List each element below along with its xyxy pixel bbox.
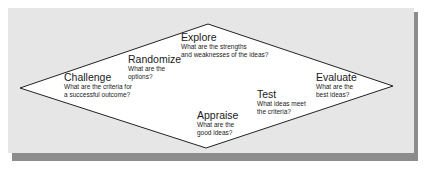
stage-question: options? bbox=[128, 73, 181, 81]
stage-title: Appraise bbox=[197, 110, 238, 121]
stage-randomize: Randomize What are the options? bbox=[128, 54, 181, 81]
stage-question: What are the strengths bbox=[181, 43, 268, 51]
stage-title: Explore bbox=[181, 32, 268, 43]
stage-challenge: Challenge What are the criteria for a su… bbox=[64, 72, 132, 99]
stage-question: good ideas? bbox=[197, 129, 238, 137]
stage-title: Challenge bbox=[64, 72, 132, 83]
stage-test: Test What ideas meet the criteria? bbox=[257, 89, 306, 116]
stage-title: Evaluate bbox=[316, 72, 357, 83]
stage-question: the criteria? bbox=[257, 108, 306, 116]
stage-title: Randomize bbox=[128, 54, 181, 65]
stage-question: What are the bbox=[128, 65, 181, 73]
stage-evaluate: Evaluate What are the best ideas? bbox=[316, 72, 357, 99]
stage-question: best ideas? bbox=[316, 91, 357, 99]
stage-question: What are the bbox=[316, 83, 357, 91]
stage-explore: Explore What are the strengths and weakn… bbox=[181, 32, 268, 59]
stage-question: a successful outcome? bbox=[64, 91, 132, 99]
stage-title: Test bbox=[257, 89, 306, 100]
stage-question: What are the criteria for bbox=[64, 83, 132, 91]
stage-question: What are the bbox=[197, 121, 238, 129]
stage-question: What ideas meet bbox=[257, 100, 306, 108]
stage-question: and weaknesses of the ideas? bbox=[181, 51, 268, 59]
stage-appraise: Appraise What are the good ideas? bbox=[197, 110, 238, 137]
